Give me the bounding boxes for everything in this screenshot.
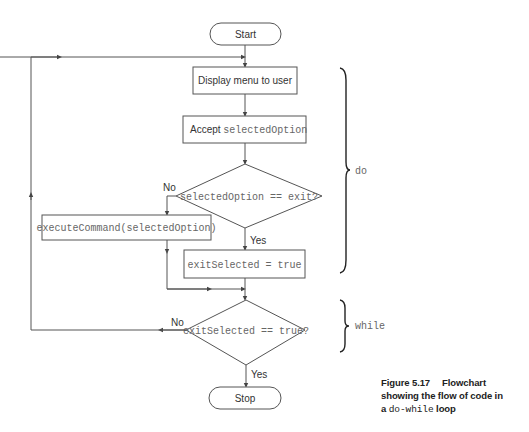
while-label: while (355, 321, 385, 332)
caption-line3-pre: a (381, 403, 389, 414)
set-exit-process: exitSelected = true (184, 250, 305, 278)
display-menu-label: Display menu to user (198, 75, 293, 86)
d2-no-label: No (171, 317, 184, 328)
caption-line1: Flowchart (442, 377, 486, 388)
start-label: Start (235, 29, 256, 40)
edge-d1-no (167, 196, 176, 214)
do-label: do (355, 166, 367, 177)
decision2-label: exitSelected == true? (183, 326, 309, 337)
caption-line3-post: loop (434, 403, 456, 414)
accept-label: Accept selectedOption (190, 124, 307, 136)
caption-line2: showing the flow of code in (381, 389, 529, 402)
figure-number: Figure 5.17 (381, 377, 430, 388)
d1-yes-label: Yes (250, 235, 266, 246)
d1-no-label: No (163, 182, 176, 193)
accept-option-process: Accept selectedOption (183, 116, 307, 143)
do-brace (340, 68, 350, 273)
set-exit-label: exitSelected = true (187, 260, 301, 271)
decision-exit-selected: exitSelected == true? (183, 300, 309, 365)
decision1-label: selectedOption == exit? (180, 192, 318, 203)
caption-code: do-while (389, 404, 434, 415)
figure-caption: Figure 5.17Flowchart showing the flow of… (381, 376, 529, 416)
start-terminal: Start (210, 23, 281, 45)
while-brace (340, 300, 349, 352)
d2-yes-label: Yes (251, 369, 267, 380)
stop-terminal: Stop (209, 387, 281, 409)
execute-label: executeCommand(selectedOption) (36, 223, 216, 234)
flowchart: Start Display menu to user Accept select… (0, 0, 529, 432)
display-menu-process: Display menu to user (193, 67, 297, 94)
stop-label: Stop (235, 393, 256, 404)
execute-command-process: executeCommand(selectedOption) (36, 215, 216, 240)
